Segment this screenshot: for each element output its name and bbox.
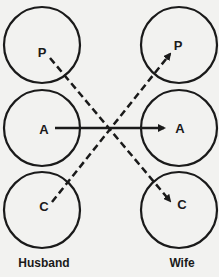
wife-child-label: C xyxy=(177,197,186,212)
husband-child-label: C xyxy=(39,199,48,214)
husband-caption: Husband xyxy=(18,256,69,270)
wife-parent-label: P xyxy=(174,38,183,53)
husband-parent-label: P xyxy=(38,45,47,60)
wife-adult-label: A xyxy=(175,121,184,136)
husband-adult-label: A xyxy=(39,122,48,137)
ego-state-diagram xyxy=(0,0,219,277)
wife-caption: Wife xyxy=(169,256,194,270)
